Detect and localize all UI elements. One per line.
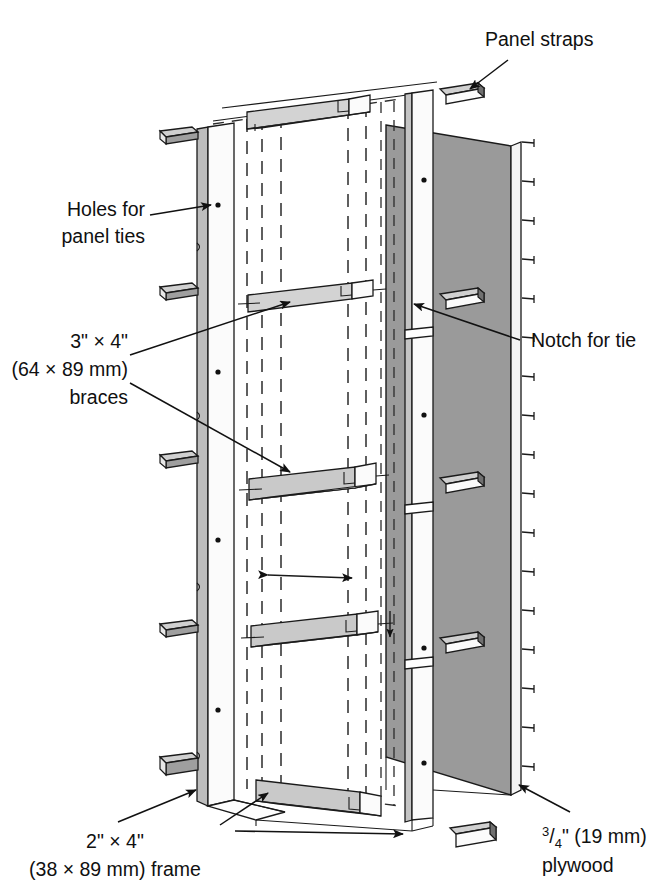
canvas-background <box>0 0 664 883</box>
label-panel-straps: Panel straps <box>485 28 594 50</box>
label-notch-for-tie: Notch for tie <box>531 329 636 351</box>
right-frame-member <box>405 90 433 822</box>
left-frame-member <box>197 123 234 806</box>
panel-tie-hole <box>421 645 426 650</box>
panel-tie-hole <box>421 177 426 182</box>
panel-tie-hole <box>215 369 220 374</box>
label-plywood-denominator: 4 <box>555 836 562 851</box>
isometric-drawing: Panel straps Holes for panel ties Notch … <box>0 0 664 883</box>
label-plywood-inches-mark: " <box>562 825 569 847</box>
label-frame-size-metric: (38 × 89 mm) frame <box>29 858 201 880</box>
label-holes-for-panel-ties-line1: Holes for <box>67 198 146 220</box>
panel-tie-hole <box>215 537 220 542</box>
label-braces-size-imperial: 3" × 4" <box>70 330 128 352</box>
label-frame-size-imperial: 2" × 4" <box>86 830 144 852</box>
panel-tie-hole <box>421 412 426 417</box>
label-braces-size-metric: (64 × 89 mm) <box>12 358 129 380</box>
label-plywood-metric: (19 mm) <box>574 825 647 847</box>
panel-tie-hole <box>215 202 220 207</box>
panel-tie-hole <box>421 760 426 765</box>
panel-tie-hole <box>215 707 220 712</box>
wall-form-diagram: Panel straps Holes for panel ties Notch … <box>0 0 664 883</box>
label-braces-word: braces <box>69 386 128 408</box>
label-plywood-word: plywood <box>542 854 614 876</box>
label-holes-for-panel-ties-line2: panel ties <box>62 225 146 247</box>
label-plywood-numerator: 3 <box>542 824 549 839</box>
